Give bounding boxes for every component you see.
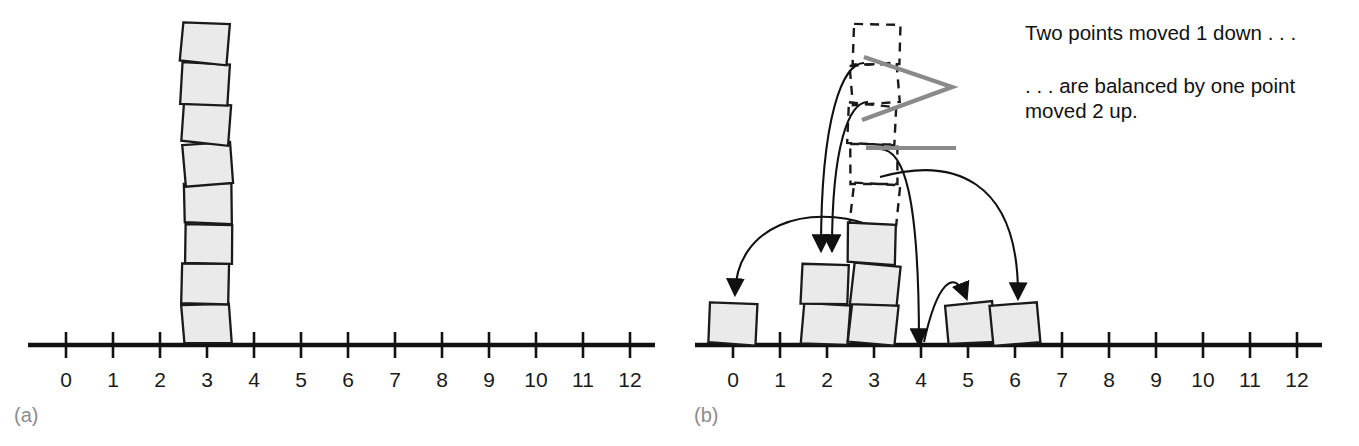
callout-leaders-b	[862, 57, 956, 148]
dot-box	[182, 142, 233, 187]
dot-box	[184, 183, 232, 224]
annotation-two-points-moved-down: Two points moved 1 down . . .	[1025, 21, 1296, 44]
dot-box	[800, 264, 848, 304]
tick-label-1: 1	[774, 368, 786, 391]
tick-label-12: 12	[618, 368, 641, 391]
panel-caption-a: (a)	[14, 404, 38, 426]
dot-box	[185, 224, 233, 264]
tick-label-2: 2	[821, 368, 833, 391]
panel-b: 0123456789101112 Two points moved 1 down…	[680, 0, 1359, 446]
tick-label-5: 5	[962, 368, 974, 391]
tick-label-6: 6	[342, 368, 354, 391]
number-line-a	[28, 332, 655, 358]
annotation-balanced-line2: moved 2 up.	[1025, 99, 1138, 122]
panel-b-canvas: 0123456789101112 Two points moved 1 down…	[680, 0, 1359, 446]
dot-box	[181, 101, 232, 145]
tick-label-3: 3	[201, 368, 213, 391]
tick-label-10: 10	[524, 368, 547, 391]
tick-label-11: 11	[572, 368, 594, 391]
dot-box	[181, 303, 232, 345]
tick-label-5: 5	[295, 368, 307, 391]
tick-label-4: 4	[248, 368, 260, 391]
tick-label-3: 3	[868, 368, 880, 391]
ghost-stacks-b	[846, 24, 900, 227]
panel-a: 0123456789101112 (a)	[0, 0, 680, 446]
dot-box	[801, 303, 851, 346]
annotation-balanced-line1: . . . are balanced by one point	[1025, 74, 1295, 97]
leader-chevron-note1	[862, 57, 952, 120]
figure-root: 0123456789101112 (a) 0123456789101112 Tw…	[0, 0, 1359, 446]
tick-labels-a: 0123456789101112	[60, 368, 642, 391]
tick-label-9: 9	[483, 368, 495, 391]
tick-label-1: 1	[107, 368, 119, 391]
tick-label-11: 11	[1239, 368, 1261, 391]
tick-label-8: 8	[436, 368, 448, 391]
tick-label-12: 12	[1285, 368, 1308, 391]
dot-box	[848, 302, 899, 346]
tick-label-6: 6	[1009, 368, 1021, 391]
dot-box	[989, 302, 1040, 346]
tick-label-4: 4	[915, 368, 927, 391]
dot-box	[179, 61, 230, 108]
tick-label-8: 8	[1103, 368, 1115, 391]
ghost-dot-box	[853, 24, 901, 65]
dot-stacks-a	[179, 21, 233, 345]
dot-box	[180, 21, 230, 65]
dot-box	[846, 222, 897, 265]
tick-label-2: 2	[154, 368, 166, 391]
tick-label-9: 9	[1150, 368, 1162, 391]
panel-caption-b: (b)	[694, 404, 718, 426]
dot-box	[181, 263, 229, 305]
dot-box	[850, 262, 901, 307]
panel-a-canvas: 0123456789101112 (a)	[0, 0, 680, 446]
tick-label-0: 0	[727, 368, 739, 391]
tick-label-0: 0	[60, 368, 72, 391]
tick-label-7: 7	[1056, 368, 1068, 391]
dot-box	[707, 301, 758, 346]
tick-label-7: 7	[389, 368, 401, 391]
tick-label-10: 10	[1191, 368, 1214, 391]
tick-labels-b: 0123456789101112	[727, 368, 1309, 391]
dot-box	[945, 301, 996, 346]
